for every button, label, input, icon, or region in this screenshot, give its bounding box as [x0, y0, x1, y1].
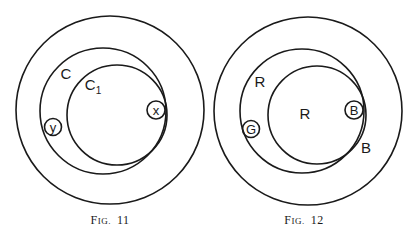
caption-fig-12: FIG.12 — [284, 213, 323, 227]
label-b-ring: B — [361, 139, 371, 156]
outer-circle — [16, 16, 204, 204]
label-g: G — [246, 122, 256, 137]
label-c1-subscript: 1 — [96, 85, 102, 96]
caption-fig-11: FIG.11 — [91, 213, 130, 227]
caption-number: 11 — [117, 213, 130, 227]
figures-canvas: C C1 y x FIG.11 R R G B B FIG.12 — [0, 0, 416, 235]
label-b-small: B — [350, 103, 359, 118]
figure-12: R R G B B FIG.12 — [214, 17, 402, 227]
caption-prefix: F — [284, 213, 291, 227]
caption-smallcaps: IG. — [98, 216, 111, 226]
figure-11: C C1 y x FIG.11 — [16, 16, 204, 227]
label-c1: C1 — [85, 76, 102, 96]
label-c1-main: C — [85, 76, 96, 93]
label-y: y — [50, 120, 57, 135]
caption-number: 12 — [311, 213, 324, 227]
label-c: C — [61, 65, 72, 82]
caption-prefix: F — [91, 213, 98, 227]
label-r-crescent: R — [255, 73, 266, 90]
label-x: x — [153, 103, 160, 118]
label-r-inner: R — [300, 105, 311, 122]
caption-smallcaps: IG. — [291, 216, 304, 226]
